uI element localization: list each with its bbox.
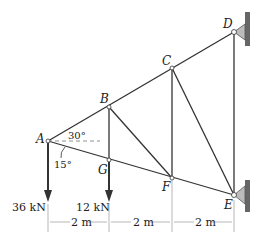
dimension-label-2: 2 m [133,216,154,229]
dimension-label-1: 2 m [71,216,92,229]
node-label-C: C [162,54,171,68]
truss-members [48,32,234,195]
node-label-E: E [223,198,233,212]
node-label-F: F [161,180,171,194]
node-label-A: A [35,132,45,146]
node-label-G: G [98,163,108,177]
wall-bottom [245,180,250,212]
dimension-label-3: 2 m [195,216,216,229]
joints [46,30,237,198]
angle-label-upper: 30° [68,130,86,141]
node-label-B: B [99,92,109,106]
angle-label-lower: 15° [54,159,72,170]
truss-diagram: A B C D G F E 30° 15° 36 kN 12 kN 2 m 2 … [0,0,264,245]
wall-top [245,12,250,46]
load-label-G: 12 kN [76,201,110,214]
angle-arc [61,147,65,158]
load-label-A: 36 kN [12,201,46,214]
node-label-D: D [222,17,233,31]
